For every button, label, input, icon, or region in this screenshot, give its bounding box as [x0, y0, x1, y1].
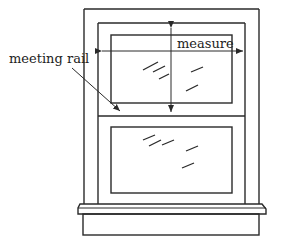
- window-diagram: measure meeting rail: [0, 0, 281, 248]
- apron: [83, 214, 259, 235]
- glass-reflection-marks-lower: [143, 135, 198, 168]
- lower-glass: [111, 127, 232, 193]
- meeting-rail-pointer-arrow: [72, 68, 120, 111]
- meeting-rail-label: meeting rail: [9, 51, 89, 66]
- glass-reflection-marks-upper: [143, 62, 203, 91]
- measure-label: measure: [177, 36, 234, 51]
- sill: [78, 204, 266, 214]
